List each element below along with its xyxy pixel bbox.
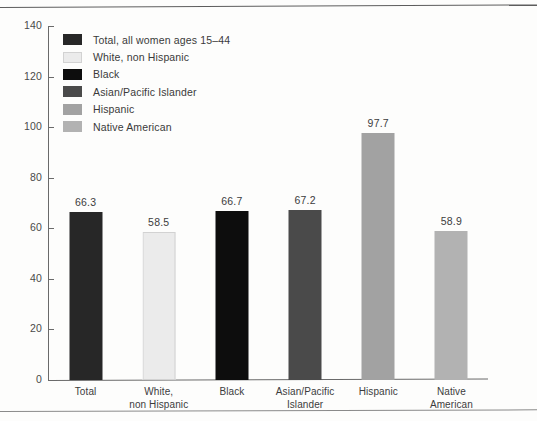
legend-item[interactable]: White, non Hispanic [63, 48, 293, 65]
bar-value-label: 67.2 [294, 194, 315, 206]
legend-swatch-icon [63, 52, 82, 63]
y-axis-tick-label: 100 [0, 120, 42, 132]
bar-white-non-hispanic[interactable] [142, 232, 175, 380]
bar-black[interactable] [215, 211, 248, 380]
bar-native-american[interactable] [435, 231, 468, 380]
bar-value-label: 58.9 [441, 215, 462, 227]
bar-chart: 140120100806040200 66.358.566.767.297.75… [0, 14, 537, 409]
x-axis-label-line1: Total [75, 386, 97, 397]
bar-slot: 97.7 [342, 26, 415, 380]
y-axis-tick [48, 380, 54, 381]
bar-hispanic[interactable] [362, 133, 395, 380]
legend-item[interactable]: Asian/Pacific Islander [63, 83, 293, 100]
y-axis-tick-label: 0 [0, 373, 42, 385]
chart-legend: Total, all women ages 15–44White, non Hi… [63, 31, 293, 135]
y-axis-tick-label: 20 [0, 322, 42, 334]
y-axis-tick-label: 60 [0, 221, 42, 233]
bar-slot: 58.9 [415, 26, 488, 380]
bar-value-label: 66.7 [221, 195, 242, 207]
x-axis-label-line1: White, [144, 386, 173, 397]
bar-asian-pacific-islander[interactable] [289, 210, 322, 380]
bar-total[interactable] [69, 212, 102, 380]
legend-item-label: White, non Hispanic [93, 51, 189, 63]
page-top-rule [0, 4, 537, 8]
legend-swatch-icon [63, 69, 82, 80]
bar-value-label: 66.3 [75, 196, 96, 208]
legend-item-label: Black [93, 68, 119, 80]
x-axis-label-line1: Native [437, 386, 466, 397]
x-axis-label-line1: Hispanic [359, 386, 398, 397]
y-axis-tick-label: 120 [0, 70, 42, 82]
x-axis-label-line2: non Hispanic [113, 399, 205, 412]
legend-item-label: Native American [93, 121, 172, 133]
chart-page: 140120100806040200 66.358.566.767.297.75… [0, 0, 537, 421]
legend-swatch-icon [63, 104, 82, 115]
legend-item[interactable]: Hispanic [63, 101, 293, 118]
x-axis-label-line1: Black [219, 386, 244, 397]
x-axis-label-line2: American [405, 399, 497, 412]
legend-item-label: Asian/Pacific Islander [93, 86, 197, 98]
x-axis-label-line2: Islander [259, 399, 351, 412]
legend-item-label: Total, all women ages 15–44 [93, 34, 230, 46]
y-axis-tick-label: 80 [0, 171, 42, 183]
bar-value-label: 97.7 [368, 117, 389, 129]
y-axis-tick-label: 40 [0, 272, 42, 284]
legend-item-label: Hispanic [93, 103, 134, 115]
legend-swatch-icon [63, 86, 82, 97]
y-axis-tick-label: 140 [0, 19, 42, 31]
legend-item[interactable]: Native American [63, 118, 293, 135]
x-axis-label-line1: Asian/Pacific [276, 386, 335, 397]
legend-item[interactable]: Total, all women ages 15–44 [63, 31, 293, 48]
x-axis-label: NativeAmerican [405, 386, 497, 411]
legend-swatch-icon [63, 121, 82, 132]
bar-value-label: 58.5 [148, 216, 169, 228]
legend-swatch-icon [63, 34, 82, 45]
legend-item[interactable]: Black [63, 66, 293, 83]
